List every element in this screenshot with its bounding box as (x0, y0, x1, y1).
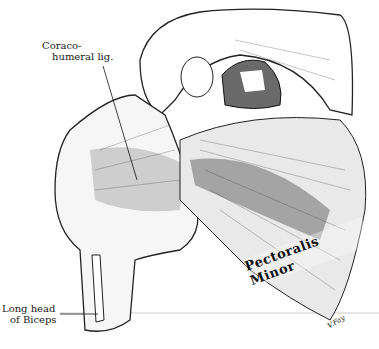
coracohumeral-label-line1: Coraco- (42, 40, 81, 51)
humerus-head (55, 95, 198, 331)
biceps-label-line1: Long head (2, 303, 55, 314)
biceps-label-line2: of Biceps (10, 314, 57, 325)
anatomy-illustration: Coraco- humeral lig. Long head of Biceps… (0, 0, 379, 349)
coracohumeral-label-line2: humeral lig. (52, 51, 113, 62)
glenoid-ring (181, 57, 213, 97)
